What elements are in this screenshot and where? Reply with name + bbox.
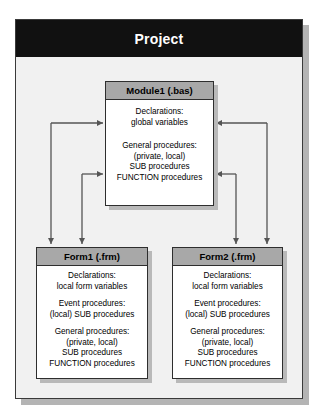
form2-general-line-1: (private, local): [173, 338, 282, 349]
form1-section-general-procedures: General procedures: (private, local) SUB…: [37, 327, 147, 369]
form1-general-line-3: FUNCTION procedures: [37, 359, 147, 370]
form2-box[interactable]: Form2 (.frm) Declarations: local form va…: [172, 247, 283, 379]
form2-section-declarations: Declarations: local form variables: [173, 271, 282, 292]
form2-declarations-line-1: local form variables: [173, 282, 282, 293]
form1-section-event-procedures: Event procedures: (local) SUB procedures: [37, 299, 147, 320]
form2-general-line-0: General procedures:: [173, 327, 282, 338]
form1-general-line-1: (private, local): [37, 338, 147, 349]
form2-section-event-procedures: Event procedures: (local) SUB procedures: [173, 299, 282, 320]
form1-declarations-line-1: local form variables: [37, 282, 147, 293]
project-title: Project: [16, 20, 302, 57]
form1-declarations-line-0: Declarations:: [37, 271, 147, 282]
diagram-canvas: Project: [0, 0, 318, 420]
form2-event-line-1: (local) SUB procedures: [173, 310, 282, 321]
form1-section-declarations: Declarations: local form variables: [37, 271, 147, 292]
form1-title: Form1 (.frm): [37, 248, 147, 266]
module1-general-line-0: General procedures:: [106, 141, 213, 152]
form1-event-line-1: (local) SUB procedures: [37, 310, 147, 321]
form2-event-line-0: Event procedures:: [173, 299, 282, 310]
module1-declarations-line-0: Declarations:: [106, 107, 213, 118]
form2-title: Form2 (.frm): [173, 248, 282, 266]
module1-body: Declarations: global variables General p…: [106, 100, 213, 183]
form2-section-general-procedures: General procedures: (private, local) SUB…: [173, 327, 282, 369]
module1-general-line-2: SUB procedures: [106, 162, 213, 173]
form1-event-line-0: Event procedures:: [37, 299, 147, 310]
module1-general-line-3: FUNCTION procedures: [106, 173, 213, 184]
form1-general-line-0: General procedures:: [37, 327, 147, 338]
module1-declarations-line-1: global variables: [106, 118, 213, 129]
form1-body: Declarations: local form variables Event…: [37, 266, 147, 369]
form2-declarations-line-0: Declarations:: [173, 271, 282, 282]
form2-general-line-3: FUNCTION procedures: [173, 359, 282, 370]
module1-box[interactable]: Module1 (.bas) Declarations: global vari…: [105, 81, 214, 206]
form2-body: Declarations: local form variables Event…: [173, 266, 282, 369]
module1-general-line-1: (private, local): [106, 152, 213, 163]
form2-general-line-2: SUB procedures: [173, 348, 282, 359]
form1-general-line-2: SUB procedures: [37, 348, 147, 359]
module1-section-general-procedures: General procedures: (private, local) SUB…: [106, 141, 213, 183]
module1-section-declarations: Declarations: global variables: [106, 107, 213, 128]
form1-box[interactable]: Form1 (.frm) Declarations: local form va…: [36, 247, 148, 379]
module1-title: Module1 (.bas): [106, 82, 213, 100]
